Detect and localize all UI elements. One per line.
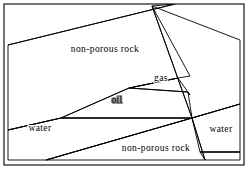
cross-section-svg: non-porous rock gas oil water water non-… [0, 0, 248, 169]
label-non-porous-rock-lower: non-porous rock [122, 143, 191, 153]
label-water-right: water [209, 124, 233, 134]
label-gas: gas [154, 73, 168, 83]
label-water-left: water [28, 123, 52, 133]
label-oil: oil [111, 95, 122, 105]
geology-diagram: non-porous rock gas oil water water non-… [0, 0, 248, 169]
label-non-porous-rock-upper: non-porous rock [71, 44, 140, 54]
